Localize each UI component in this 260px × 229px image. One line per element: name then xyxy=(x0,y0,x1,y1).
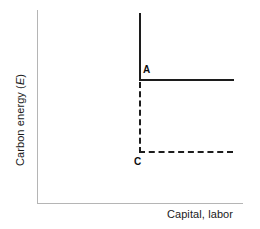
y-axis-label-symbol: E xyxy=(14,78,26,85)
y-axis-label-text: Carbon energy ( xyxy=(14,85,26,166)
y-axis-label-close: ) xyxy=(14,74,26,78)
isoquant-a-vertical-segment xyxy=(139,13,141,80)
isoquant-c-vertical-segment xyxy=(139,82,141,153)
y-axis-label: Carbon energy (E) xyxy=(14,30,30,210)
x-axis-label: Capital, labor xyxy=(145,208,255,220)
point-label-c: C xyxy=(134,156,141,167)
isoquant-a-horizontal-segment xyxy=(139,79,234,81)
isoquant-chart-figure: Carbon energy (E) Capital, labor A C xyxy=(0,0,260,229)
point-label-a: A xyxy=(143,64,150,75)
x-axis-line xyxy=(37,203,243,204)
isoquant-c-horizontal-segment xyxy=(139,151,233,153)
y-axis-line xyxy=(37,10,38,204)
